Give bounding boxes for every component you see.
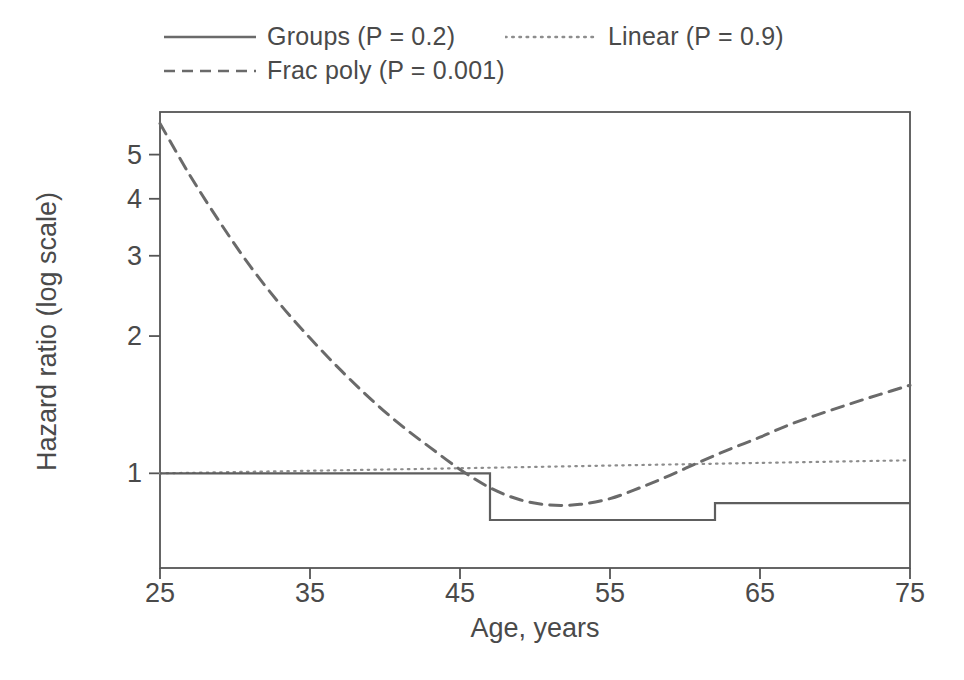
figure-canvas: Groups (P = 0.2) Linear (P = 0.9) Frac p… — [0, 0, 964, 680]
series-groups — [160, 473, 910, 520]
x-tick-label: 65 — [730, 578, 790, 609]
y-axis-ticks — [149, 155, 160, 474]
series-fracpoly — [160, 124, 910, 506]
series-path — [160, 473, 910, 520]
y-tick-label: 1 — [102, 458, 142, 489]
y-tick-label: 3 — [102, 240, 142, 271]
x-tick-label: 35 — [280, 578, 340, 609]
series-path — [160, 460, 910, 473]
plot-frame — [160, 112, 910, 568]
x-tick-label: 25 — [130, 578, 190, 609]
series-linear — [160, 460, 910, 473]
x-tick-label: 45 — [430, 578, 490, 609]
plot-area: 12345 253545556575 Hazard ratio (log sca… — [0, 0, 964, 680]
series-path — [160, 124, 910, 506]
x-tick-labels: 253545556575 — [0, 578, 964, 618]
y-axis-title: Hazard ratio (log scale) — [32, 122, 63, 542]
x-tick-label: 75 — [880, 578, 940, 609]
y-tick-label: 2 — [102, 321, 142, 352]
y-tick-label: 4 — [102, 183, 142, 214]
y-tick-label: 5 — [102, 139, 142, 170]
x-tick-label: 55 — [580, 578, 640, 609]
x-axis-title: Age, years — [160, 613, 910, 644]
